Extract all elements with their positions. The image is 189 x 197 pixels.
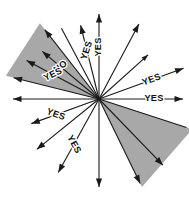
ray-sw2-label: YES	[65, 133, 83, 154]
ray-nnw1-label: YES	[79, 40, 94, 61]
ray-s-arrowhead-icon	[96, 179, 102, 188]
ray-sse-arrowhead-icon	[134, 174, 141, 183]
ray-ene-arrowhead-icon	[175, 68, 184, 74]
ray-w-arrowhead-icon	[13, 96, 22, 102]
vector-diagram-canvas: YESYESYESYESYESYESYESYESNONOYESYESYESYES…	[0, 0, 189, 197]
ray-wnw2-arrowhead-icon	[14, 77, 23, 83]
ray-e-label: YES	[145, 93, 164, 103]
ray-wsw-label: YES	[45, 106, 66, 122]
ray-nne	[99, 24, 139, 99]
ray-ene-label: YES	[141, 71, 162, 87]
ray-ene	[99, 68, 184, 99]
ray-e-arrowhead-icon	[175, 96, 184, 102]
ray-wsw-arrowhead-icon	[31, 118, 40, 124]
ray-n-label: YES	[93, 38, 103, 57]
vector-ray-figure: YESYESYESYESYESYESYESYESNONOYESYESYESYES…	[0, 0, 189, 197]
ray-nnw1-arrowhead-icon	[80, 25, 86, 34]
ray-n-arrowhead-icon	[96, 14, 102, 23]
ray-sw2	[58, 99, 99, 172]
ray-sw2-arrowhead-icon	[58, 164, 65, 173]
ray-nne-arrowhead-icon	[132, 24, 139, 33]
